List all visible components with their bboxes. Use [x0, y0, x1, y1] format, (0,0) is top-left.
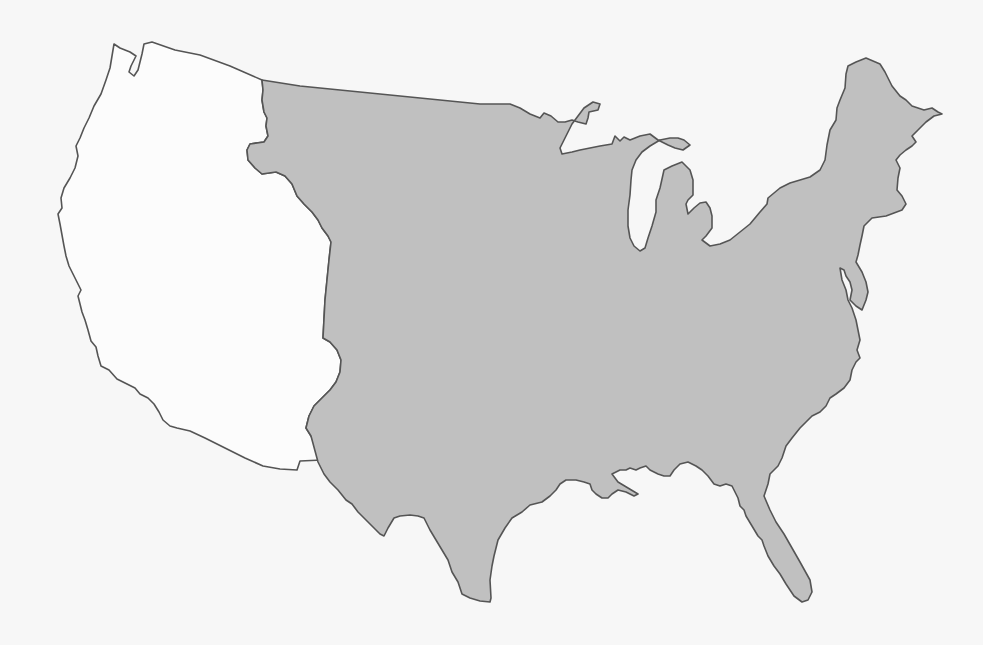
- us-map: [0, 0, 983, 645]
- eastern-region: [247, 58, 942, 602]
- map-container: [0, 0, 983, 645]
